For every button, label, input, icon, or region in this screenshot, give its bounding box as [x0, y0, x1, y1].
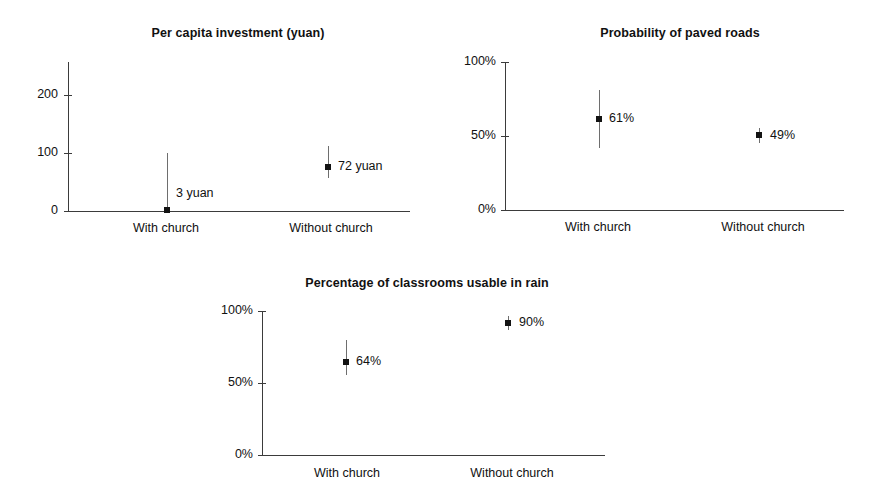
chart-panel-probability-paved-roads: Probability of paved roads 100% 50% 0% 6…	[440, 0, 874, 250]
y-tick-label-100: 100%	[440, 54, 496, 68]
error-bar-with-church	[167, 153, 168, 211]
y-tick-200	[64, 95, 72, 96]
x-axis-line	[68, 211, 410, 212]
data-point-without-church	[325, 164, 331, 170]
data-label-without-church: 90%	[519, 315, 544, 329]
y-axis-line	[68, 62, 69, 212]
y-tick-50	[501, 136, 509, 137]
y-tick-0	[64, 211, 72, 212]
data-point-without-church	[505, 320, 511, 326]
y-tick-label-50: 50%	[197, 375, 253, 389]
data-label-without-church: 72 yuan	[338, 159, 382, 173]
y-tick-100	[501, 62, 509, 63]
data-label-with-church: 3 yuan	[176, 186, 214, 200]
y-tick-label-0: 0	[10, 203, 58, 217]
chart-panel-classrooms-usable-in-rain: Percentage of classrooms usable in rain …	[197, 250, 677, 503]
data-label-with-church: 61%	[609, 111, 634, 125]
data-point-with-church	[343, 359, 349, 365]
x-category-label-with-church: With church	[538, 220, 658, 234]
x-category-label-without-church: Without church	[447, 466, 577, 480]
error-bar-without-church	[328, 146, 329, 178]
chart-title: Probability of paved roads	[490, 26, 870, 40]
y-tick-label-200: 200	[10, 87, 58, 101]
y-tick-label-100: 100%	[197, 303, 253, 317]
data-point-with-church	[164, 207, 170, 213]
chart-title: Percentage of classrooms usable in rain	[227, 276, 627, 290]
y-tick-50	[258, 383, 266, 384]
x-category-label-with-church: With church	[106, 221, 226, 235]
x-category-label-without-church: Without church	[266, 221, 396, 235]
x-category-label-with-church: With church	[287, 466, 407, 480]
y-tick-0	[258, 455, 266, 456]
data-point-without-church	[756, 132, 762, 138]
y-tick-100	[64, 153, 72, 154]
x-axis-line	[505, 210, 844, 211]
y-tick-label-100: 100	[10, 145, 58, 159]
y-tick-100	[258, 311, 266, 312]
x-axis-line	[262, 455, 605, 456]
data-label-without-church: 49%	[770, 128, 795, 142]
data-point-with-church	[596, 116, 602, 122]
error-bar-with-church	[346, 340, 347, 375]
x-category-label-without-church: Without church	[698, 220, 828, 234]
chart-panel-per-capita-investment: Per capita investment (yuan) 200 100 0 3…	[0, 0, 440, 250]
y-tick-0	[501, 210, 509, 211]
y-tick-label-0: 0%	[197, 447, 253, 461]
y-tick-label-50: 50%	[440, 128, 496, 142]
chart-title: Per capita investment (yuan)	[48, 26, 428, 40]
y-tick-label-0: 0%	[440, 202, 496, 216]
data-label-with-church: 64%	[356, 354, 381, 368]
